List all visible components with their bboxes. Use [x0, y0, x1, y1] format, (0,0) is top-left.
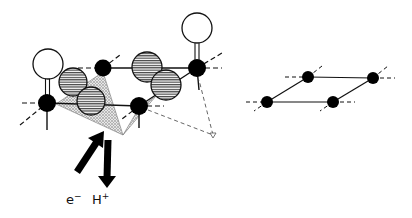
black-atom — [95, 60, 112, 77]
electron-label: e− — [66, 191, 82, 207]
right-panel — [246, 66, 395, 111]
open-atom-left — [33, 49, 63, 79]
triangle-marker — [210, 133, 216, 138]
bond — [333, 78, 373, 102]
striped-atom-4 — [151, 70, 181, 100]
open-atom-right — [182, 13, 212, 43]
proton-label: H+ — [92, 191, 109, 207]
striped-atom-2 — [77, 87, 105, 115]
electron-arrow — [77, 131, 104, 172]
diagram-canvas — [0, 0, 412, 218]
left-panel — [20, 13, 222, 188]
black-atom — [130, 97, 148, 115]
lattice-atom — [327, 96, 339, 108]
proton-arrow — [98, 140, 116, 188]
black-atom — [188, 59, 206, 77]
bond — [267, 77, 308, 102]
lattice-atom — [302, 71, 314, 83]
lattice-atom — [367, 72, 379, 84]
black-atom — [38, 94, 56, 112]
bond — [308, 77, 373, 78]
lattice-atom — [261, 96, 273, 108]
